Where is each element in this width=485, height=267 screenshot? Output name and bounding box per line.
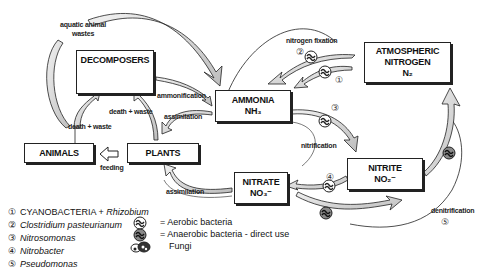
label-line: aquatic animal — [58, 20, 108, 29]
label-assimilation-top: assimilation — [164, 113, 202, 120]
label-feeding: feeding — [100, 164, 124, 171]
legend-number: ① — [8, 207, 16, 217]
node-title: AMMONIA — [216, 95, 290, 106]
legend-item: ③Nitrosomonas — [8, 232, 149, 245]
node-atmospheric-nitrogen: ATMOSPHERIC NITROGEN N₂ — [364, 42, 451, 83]
label-line: wastes — [58, 29, 108, 38]
organism-legend: ①CYANOBACTERIA + Rhizobium ②Clostridium … — [8, 206, 149, 267]
arrow-nitrite-to-nitrate — [286, 176, 348, 190]
key-item-anaerobic: = Anaerobic bacteria - direct use — [160, 228, 289, 240]
node-nitrate: NITRATE NO₃⁻ — [234, 172, 288, 204]
legend-species: Pseudomonas — [20, 259, 78, 267]
anaerobic-bacteria-icon — [443, 147, 455, 159]
node-title: NITROGEN — [365, 57, 450, 68]
legend-item: ④Nitrobacter — [8, 245, 149, 258]
legend-number: ② — [8, 220, 16, 230]
step-number-4: ④ — [326, 172, 334, 182]
node-ammonia: AMMONIA NH₃ — [215, 90, 291, 122]
node-title: NITRATE — [235, 177, 287, 188]
node-decomposers: DECOMPOSERS — [76, 50, 154, 94]
label-ammonification: ammonification — [157, 92, 206, 99]
step-number-3: ③ — [331, 103, 339, 113]
node-title: NITRITE — [348, 163, 422, 174]
node-title: DECOMPOSERS — [77, 55, 153, 66]
arrow-death-waste-left — [74, 92, 100, 148]
label-nitrogen-fixation: nitrogen fixation — [286, 37, 337, 44]
step-number-5: ⑤ — [441, 217, 449, 227]
label-death-waste-mid: death + waste — [109, 108, 153, 115]
anaerobic-bacteria-icon — [320, 207, 332, 219]
key-item-fungi: Fungi — [160, 240, 289, 252]
legend-item: ①CYANOBACTERIA + Rhizobium — [8, 206, 149, 219]
legend-species: Nitrosomonas — [20, 233, 76, 243]
label-nitrification: nitrification — [301, 142, 337, 149]
icon-key: = Aerobic bacteria = Anaerobic bacteria … — [160, 216, 289, 252]
label-aquatic-wastes: aquatic animal wastes — [58, 20, 108, 38]
step-number-2: ② — [296, 47, 304, 57]
aerobic-bacteria-icon — [319, 115, 331, 127]
legend-species: Nitrobacter — [20, 246, 64, 256]
node-title: ATMOSPHERIC — [365, 46, 450, 57]
label-assimilation-bottom: assimilation — [166, 188, 204, 195]
node-nitrite: NITRITE NO₂⁻ — [347, 158, 423, 190]
node-animals: ANIMALS — [24, 143, 94, 163]
legend-number: ③ — [8, 233, 16, 243]
legend-item: ②Clostridium pasteurianum — [8, 219, 149, 232]
legend-item: ⑤Pseudomonas — [8, 258, 149, 267]
label-denitrification: denitrification — [431, 207, 474, 214]
node-formula: NO₂⁻ — [348, 174, 422, 185]
arrow-feeding — [100, 147, 118, 161]
arrow-death-waste-mid — [134, 92, 158, 140]
label-death-waste-left: death + waste — [68, 123, 112, 130]
aerobic-bacteria-icon — [305, 51, 317, 63]
node-title: ANIMALS — [25, 148, 93, 159]
node-title: PLANTS — [128, 148, 198, 159]
node-formula: N₂ — [365, 68, 450, 79]
node-plants: PLANTS — [127, 143, 199, 163]
legend-number: ⑤ — [8, 259, 16, 267]
key-item-aerobic: = Aerobic bacteria — [160, 216, 289, 228]
step-number-1: ① — [335, 75, 343, 85]
aerobic-bacteria-icon — [319, 66, 331, 78]
node-formula: NO₃⁻ — [235, 188, 287, 199]
node-formula: NH₃ — [216, 106, 290, 117]
legend-text: CYANOBACTERIA + — [20, 207, 106, 217]
legend-species: Rhizobium — [106, 207, 149, 217]
arrow-animals-loop — [47, 40, 70, 128]
arrow-nitrite-to-atmospheric — [424, 88, 460, 176]
legend-number: ④ — [8, 246, 16, 256]
legend-species: Clostridium pasteurianum — [20, 220, 122, 230]
